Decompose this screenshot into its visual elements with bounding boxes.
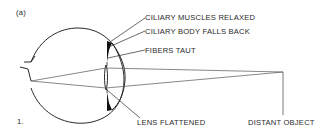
panel-label: (a) (16, 9, 26, 17)
label-ciliary-muscles: CILIARY MUSCLES RELAXED (145, 14, 255, 22)
ciliary-body-bottom (107, 92, 112, 111)
optic-nerve-lower (20, 67, 31, 81)
label-lens: LENS FLATTENED (137, 119, 206, 127)
step-number: 1. (17, 118, 24, 126)
label-distant-object: DISTANT OBJECT (248, 119, 315, 127)
ray-upper (31, 68, 106, 81)
ray-lower (31, 81, 106, 88)
label-ciliary-body: CILIARY BODY FALLS BACK (145, 28, 250, 36)
label-fibers: FIBERS TAUT (145, 47, 196, 55)
ciliary-body-top (107, 41, 112, 62)
lens (105, 65, 108, 90)
